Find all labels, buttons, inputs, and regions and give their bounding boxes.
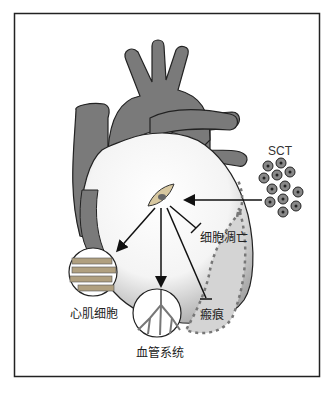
apoptosis-label: 细胞凋亡 — [200, 228, 248, 245]
sct-label: SCT — [268, 144, 292, 158]
cardiomyocytes-label: 心肌细胞 — [70, 304, 118, 321]
vasculature-label: 血管系统 — [136, 343, 184, 360]
vasculature-inset — [133, 289, 181, 337]
cardiomyocyte-inset — [69, 248, 117, 296]
scar-label: 瘢痕 — [200, 305, 224, 322]
